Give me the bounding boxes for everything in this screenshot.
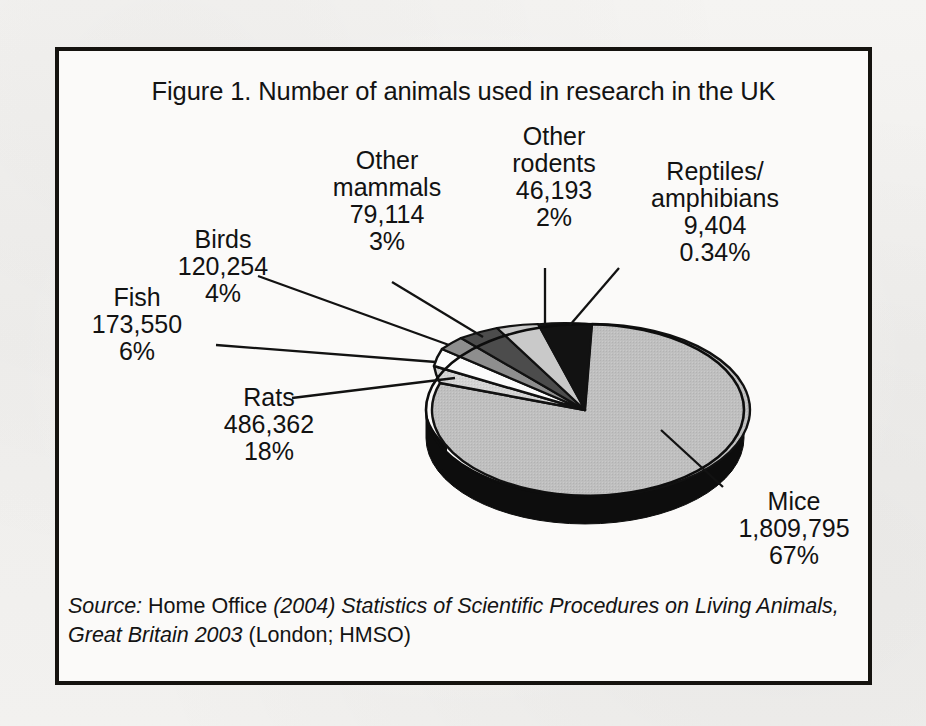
callout-reptiles-value: 9,404 bbox=[606, 212, 824, 239]
callout-mice-percent: 67% bbox=[690, 542, 898, 569]
callout-other-mammals-name1: Other bbox=[292, 147, 482, 174]
callout-mice-value: 1,809,795 bbox=[690, 515, 898, 542]
callout-rats-value: 486,362 bbox=[176, 411, 362, 438]
figure-frame: Figure 1. Number of animals used in rese… bbox=[55, 47, 872, 685]
callout-birds-value: 120,254 bbox=[128, 253, 318, 280]
callout-other-mammals-name2: mammals bbox=[292, 174, 482, 201]
callout-fish-value: 173,550 bbox=[44, 311, 230, 338]
source-citation: Source: Home Office (2004) Statistics of… bbox=[68, 592, 848, 649]
callout-fish-name: Fish bbox=[44, 284, 230, 311]
callout-mice-name: Mice bbox=[690, 488, 898, 515]
callout-other-mammals: Other mammals 79,114 3% bbox=[292, 147, 482, 255]
callout-reptiles-percent: 0.34% bbox=[606, 239, 824, 266]
callout-other-mammals-percent: 3% bbox=[292, 228, 482, 255]
callout-reptiles-name2: amphibians bbox=[606, 185, 824, 212]
callout-mice: Mice 1,809,795 67% bbox=[690, 488, 898, 569]
callout-other-rodents-name1: Other bbox=[468, 123, 640, 150]
callout-rats: Rats 486,362 18% bbox=[176, 384, 362, 465]
callout-reptiles-name1: Reptiles/ bbox=[606, 158, 824, 185]
callout-rats-name: Rats bbox=[176, 384, 362, 411]
page-title: Figure 1. Number of animals used in rese… bbox=[59, 77, 868, 106]
source-imprint: (London; HMSO) bbox=[243, 623, 411, 647]
callout-rats-percent: 18% bbox=[176, 438, 362, 465]
callout-birds-name: Birds bbox=[128, 226, 318, 253]
source-publisher: Home Office bbox=[142, 594, 273, 618]
callout-other-mammals-value: 79,114 bbox=[292, 201, 482, 228]
callout-reptiles-amphibians: Reptiles/ amphibians 9,404 0.34% bbox=[606, 158, 824, 266]
callout-fish-percent: 6% bbox=[44, 338, 230, 365]
source-prefix: Source: bbox=[68, 594, 142, 618]
callout-fish: Fish 173,550 6% bbox=[44, 284, 230, 365]
